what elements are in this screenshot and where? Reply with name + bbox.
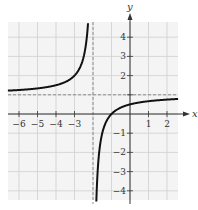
x-tick-label: −6 — [12, 119, 26, 129]
y-tick-label: −2 — [113, 147, 126, 157]
x-tick-label: −3 — [68, 119, 82, 129]
y-tick-label: −4 — [113, 186, 127, 196]
y-axis-label: y — [126, 1, 133, 12]
x-tick-label: −5 — [31, 119, 45, 129]
x-tick-label: 1 — [146, 119, 152, 129]
x-tick-label: 2 — [164, 119, 170, 129]
y-tick-label: −1 — [113, 128, 126, 138]
y-axis-arrow-icon — [128, 13, 133, 20]
x-axis-label: x — [192, 108, 198, 119]
x-tick-label: −4 — [49, 119, 63, 129]
rational-function-graph: xy −6−5−4−312−4−3−2−1234 — [0, 0, 198, 210]
y-tick-label: 4 — [120, 32, 126, 42]
y-tick-label: 2 — [120, 71, 126, 81]
x-axis-arrow-icon — [183, 112, 190, 117]
y-tick-label: −3 — [113, 167, 127, 177]
y-tick-label: 3 — [120, 51, 126, 61]
